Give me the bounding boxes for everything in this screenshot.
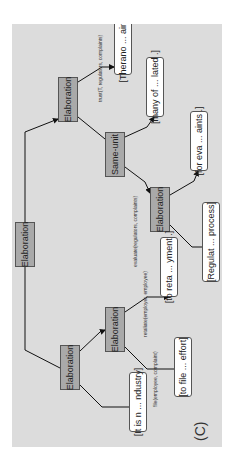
node-right-elaboration: Elaboration: [58, 77, 78, 122]
leaf-for-eva-aints: [for eva ... aints .]: [190, 111, 208, 171]
edge-label-file: file(employee, complaint): [152, 351, 158, 407]
edge-label-evaluate: evaluate(regulators, complaints): [132, 196, 138, 267]
node-root-elaboration: Elaboration: [15, 222, 35, 267]
leaf-it-is-n-industry: [It is n ... ndustry]: [129, 372, 147, 432]
node-left-child-elaboration: Elaboration: [105, 307, 125, 352]
edge-label-retaliate: retaliate(employer, employee): [142, 271, 148, 337]
node-same-unit: Same-unit: [105, 132, 125, 177]
leaf-regulat-process: [Regulat ... process]: [202, 202, 220, 282]
node-left-elaboration: Elaboration: [60, 345, 80, 390]
leaf-to-file-effort: [to file ... effort]: [174, 337, 192, 397]
leaf-therano-aints: [Therano ... aints .]: [114, 24, 132, 75]
rotated-tree: Elaboration Elaboration Elaboration Elab…: [12, 24, 222, 447]
node-same-unit-child-elaboration: Elaboration: [150, 187, 170, 232]
leaf-to-reta-yment: [to reta ... yment .]: [160, 237, 178, 297]
panel-label: (C): [192, 422, 208, 441]
leaf-many-of-lated: [many of ... lated .]: [146, 57, 164, 117]
diagram-panel: Elaboration Elaboration Elaboration Elab…: [12, 24, 222, 447]
edge-label-trust: trust(T, regulators, complaints): [97, 35, 103, 102]
